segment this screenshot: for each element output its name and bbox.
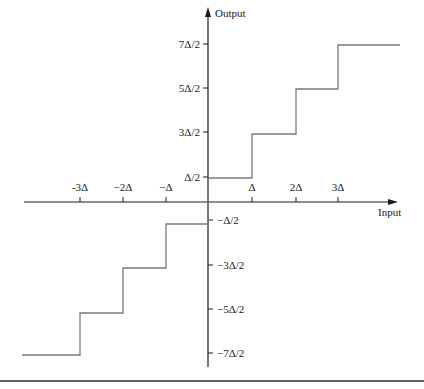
x-tick-label: 3Δ	[332, 181, 345, 193]
x-tick-label: 2Δ	[290, 181, 303, 193]
x-tick-label: −2Δ	[114, 181, 133, 193]
y-tick-label: −5Δ/2	[217, 303, 244, 315]
x-axis-label: Input	[378, 206, 401, 218]
y-tick-label: −3Δ/2	[217, 259, 244, 271]
y-axis-label: Output	[215, 7, 246, 19]
y-tick-label: 3Δ/2	[179, 126, 200, 138]
y-axis-arrow-icon	[205, 7, 211, 17]
y-tick-label: −7Δ/2	[217, 347, 244, 359]
y-tick-label: −Δ/2	[217, 214, 239, 226]
x-tick-label: −Δ	[159, 181, 172, 193]
x-tick-label: Δ	[248, 181, 255, 193]
x-tick-group	[80, 197, 338, 202]
x-axis-arrow-icon	[388, 199, 398, 205]
y-tick-label: 7Δ/2	[179, 38, 200, 50]
y-tick-label: 5Δ/2	[179, 82, 200, 94]
quantizer-diagram: Input Output -3Δ −2Δ −Δ Δ 2Δ 3Δ 7Δ/2 5Δ/…	[0, 0, 424, 389]
y-tick-label: Δ/2	[184, 171, 200, 183]
x-tick-label: -3Δ	[72, 181, 88, 193]
